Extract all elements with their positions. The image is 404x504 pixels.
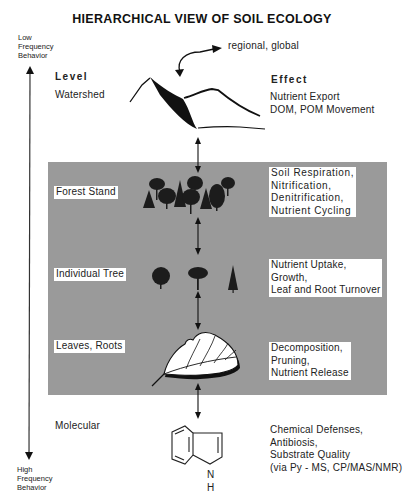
trees-icon: [152, 265, 238, 293]
axis-bottom-line: Behavior: [17, 483, 52, 492]
axis-top-line: Behavior: [18, 51, 53, 60]
effect-line: Denitrification,: [271, 192, 354, 205]
axis-bottom-label: High Frequency Behavior: [17, 465, 52, 492]
level-forest-stand: Forest Stand: [54, 186, 118, 199]
effect-line: Nutrient Release: [271, 367, 349, 380]
level-leaves-roots: Leaves, Roots: [54, 340, 125, 353]
effect-line: Chemical Defenses,: [270, 424, 402, 437]
leaf-icon: [152, 333, 240, 386]
axis-top-line: Low: [18, 33, 53, 42]
effects-leaves-roots: Decomposition, Pruning, Nutrient Release: [269, 342, 351, 380]
axis-bottom-line: High: [17, 465, 52, 474]
frequency-axis: [25, 66, 34, 460]
effect-line: Pruning,: [271, 355, 349, 368]
indole-molecule-icon: [172, 426, 222, 464]
effect-line: Nutrient Uptake,: [271, 259, 380, 272]
axis-top-label: Low Frequency Behavior: [18, 33, 53, 60]
effect-line: Soil Respiration,: [271, 167, 354, 180]
forest-icon: [143, 176, 235, 214]
molecule-h-label: H: [207, 482, 214, 495]
level-header: Level: [55, 71, 88, 82]
effect-line: (via Py - MS, CP/MAS/NMR): [270, 462, 402, 475]
effect-line: Leaf and Root Turnover: [271, 284, 380, 297]
effect-line: Decomposition,: [271, 342, 349, 355]
scale-note: regional, global: [228, 40, 299, 53]
effect-line: Nitrification,: [271, 180, 354, 193]
mountain-icon: [130, 77, 265, 129]
diagram-title: HIERARCHICAL VIEW OF SOIL ECOLOGY: [0, 12, 404, 26]
effect-line: Nutrient Cycling: [271, 205, 354, 218]
effects-watershed: Nutrient Export DOM, POM Movement: [270, 91, 375, 116]
effects-individual-tree: Nutrient Uptake, Growth, Leaf and Root T…: [269, 259, 382, 297]
level-individual-tree: Individual Tree: [54, 268, 126, 281]
effect-line: Nutrient Export: [270, 91, 375, 104]
axis-top-line: Frequency: [18, 42, 53, 51]
scale-up-arrow-icon: [175, 45, 222, 77]
level-molecular: Molecular: [55, 420, 100, 433]
axis-bottom-line: Frequency: [17, 474, 52, 483]
effect-line: DOM, POM Movement: [270, 104, 375, 117]
effect-line: Antibiosis,: [270, 437, 402, 450]
effect-line: Growth,: [271, 272, 380, 285]
level-watershed: Watershed: [55, 89, 105, 102]
effect-header: Effect: [271, 74, 308, 85]
molecule-n-label: N: [207, 469, 214, 482]
effects-forest-stand: Soil Respiration, Nitrification, Denitri…: [269, 167, 356, 217]
effect-line: Substrate Quality: [270, 449, 402, 462]
effects-molecular: Chemical Defenses, Antibiosis, Substrate…: [270, 424, 402, 474]
